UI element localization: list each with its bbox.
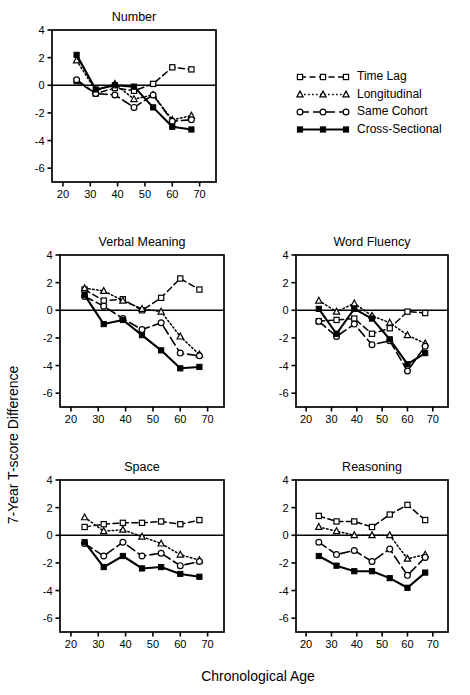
y-tick-label: -4 xyxy=(279,585,289,597)
series-marker-cross-sectional xyxy=(93,87,98,92)
series-marker-time-lag xyxy=(82,524,87,529)
x-tick-label: 30 xyxy=(325,638,337,650)
series-marker-cross-sectional xyxy=(352,306,357,311)
series-marker-time-lag xyxy=(369,524,374,529)
legend: Time LagLongitudinalSame CohortCross-Sec… xyxy=(297,69,442,136)
series-marker-cross-sectional xyxy=(74,52,79,57)
series-marker-time-lag xyxy=(387,326,392,331)
series-marker-same-cohort xyxy=(158,320,164,326)
x-tick-label: 70 xyxy=(201,413,213,425)
series-marker-longitudinal xyxy=(158,540,164,546)
series-marker-cross-sectional xyxy=(387,337,392,342)
legend-item-time_lag[interactable]: Time Lag xyxy=(297,69,406,83)
series-marker-cross-sectional xyxy=(139,566,144,571)
y-tick-label: -6 xyxy=(35,162,45,174)
x-tick-label: 40 xyxy=(119,638,131,650)
series-marker-same-cohort xyxy=(405,368,411,374)
legend-marker-same_cohort xyxy=(343,109,349,115)
legend-item-cross_sectional[interactable]: Cross-Sectional xyxy=(297,122,441,136)
x-tick-label: 60 xyxy=(401,638,413,650)
series-marker-same-cohort xyxy=(422,343,428,349)
series-marker-same-cohort xyxy=(197,559,203,565)
series-marker-time-lag xyxy=(170,65,175,70)
panel-verbal-meaning: Verbal Meaning420-2-4-6203040506070 xyxy=(43,235,224,425)
y-tick-label: -2 xyxy=(35,107,45,119)
legend-item-longitudinal[interactable]: Longitudinal xyxy=(297,87,422,101)
series-marker-longitudinal xyxy=(101,288,107,294)
series-marker-cross-sectional xyxy=(82,540,87,545)
series-marker-longitudinal xyxy=(316,524,322,530)
y-axis-title: 7-Year T-score Difference xyxy=(5,366,21,525)
series-marker-time-lag xyxy=(178,276,183,281)
series-marker-time-lag xyxy=(334,317,339,322)
series-marker-same-cohort xyxy=(369,342,375,348)
legend-marker-time_lag xyxy=(320,74,325,79)
x-tick-label: 70 xyxy=(193,188,205,200)
y-tick-label: -2 xyxy=(43,557,53,569)
legend-label-longitudinal: Longitudinal xyxy=(357,87,422,101)
y-tick-label: 2 xyxy=(46,277,52,289)
legend-item-same_cohort[interactable]: Same Cohort xyxy=(297,104,428,118)
x-tick-label: 60 xyxy=(401,413,413,425)
series-marker-time-lag xyxy=(197,287,202,292)
y-tick-label: 2 xyxy=(282,277,288,289)
y-tick-label: 0 xyxy=(46,304,52,316)
legend-marker-cross_sectional xyxy=(343,127,348,132)
series-marker-cross-sectional xyxy=(405,362,410,367)
series-marker-cross-sectional xyxy=(151,105,156,110)
y-tick-label: -4 xyxy=(43,585,53,597)
legend-label-same_cohort: Same Cohort xyxy=(357,104,428,118)
series-marker-longitudinal xyxy=(158,308,164,314)
series-marker-cross-sectional xyxy=(197,574,202,579)
y-tick-label: -4 xyxy=(279,360,289,372)
y-tick-label: 4 xyxy=(282,474,288,486)
legend-marker-cross_sectional xyxy=(320,127,325,132)
series-marker-longitudinal xyxy=(351,532,357,538)
y-tick-label: -2 xyxy=(279,557,289,569)
series-marker-same-cohort xyxy=(387,546,393,552)
series-marker-longitudinal xyxy=(316,297,322,303)
series-marker-cross-sectional xyxy=(369,316,374,321)
series-marker-cross-sectional xyxy=(101,564,106,569)
series-marker-cross-sectional xyxy=(101,321,106,326)
series-marker-longitudinal xyxy=(333,308,339,314)
series-marker-same-cohort xyxy=(422,554,428,560)
y-tick-label: -6 xyxy=(43,387,53,399)
series-marker-same-cohort xyxy=(189,117,195,123)
x-tick-label: 40 xyxy=(351,638,363,650)
series-marker-same-cohort xyxy=(139,327,145,333)
series-marker-cross-sectional xyxy=(178,366,183,371)
series-marker-same-cohort xyxy=(74,77,80,83)
x-tick-label: 20 xyxy=(65,413,77,425)
series-marker-time-lag xyxy=(405,309,410,314)
series-marker-longitudinal xyxy=(333,528,339,534)
series-marker-same-cohort xyxy=(197,353,203,359)
series-marker-same-cohort xyxy=(112,92,118,98)
legend-label-cross_sectional: Cross-Sectional xyxy=(357,122,442,136)
series-marker-cross-sectional xyxy=(159,564,164,569)
x-tick-label: 60 xyxy=(174,638,186,650)
figure-root: Number420-2-4-6203040506070Verbal Meanin… xyxy=(0,0,470,695)
y-tick-label: -4 xyxy=(35,135,45,147)
y-tick-label: 4 xyxy=(46,249,52,261)
y-tick-label: 0 xyxy=(38,79,44,91)
series-marker-same-cohort xyxy=(131,104,137,110)
y-tick-label: 0 xyxy=(282,529,288,541)
x-tick-label: 20 xyxy=(65,638,77,650)
series-marker-same-cohort xyxy=(405,572,411,578)
series-marker-cross-sectional xyxy=(197,364,202,369)
y-tick-label: 2 xyxy=(282,502,288,514)
x-tick-label: 30 xyxy=(92,638,104,650)
series-marker-same-cohort xyxy=(120,539,126,545)
series-marker-same-cohort xyxy=(101,553,107,559)
series-marker-longitudinal xyxy=(387,532,393,538)
series-marker-time-lag xyxy=(352,519,357,524)
series-marker-same-cohort xyxy=(369,559,375,565)
series-marker-cross-sectional xyxy=(178,571,183,576)
series-marker-cross-sectional xyxy=(316,553,321,558)
y-tick-label: 2 xyxy=(46,502,52,514)
y-tick-label: -6 xyxy=(279,387,289,399)
y-tick-label: 4 xyxy=(282,249,288,261)
series-marker-time-lag xyxy=(159,295,164,300)
series-marker-cross-sectional xyxy=(352,569,357,574)
